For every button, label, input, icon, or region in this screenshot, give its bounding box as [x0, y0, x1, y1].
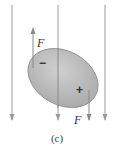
force-label-down: F: [73, 113, 82, 127]
arrowhead-down-icon: [87, 114, 92, 121]
field-line-3: [103, 5, 108, 121]
plus-sign: +: [76, 83, 83, 97]
arrowhead-down-icon: [10, 114, 15, 121]
minus-sign: −: [39, 56, 46, 70]
arrowhead-down-icon: [56, 114, 61, 121]
force-label-up: F: [36, 36, 45, 50]
field-line-1: [10, 5, 15, 121]
diagram-canvas: F F − + (c): [0, 0, 115, 156]
caption: (c): [51, 132, 64, 145]
charged-body: [18, 37, 109, 119]
arrowhead-up-icon: [31, 27, 36, 34]
arrowhead-down-icon: [103, 114, 108, 121]
